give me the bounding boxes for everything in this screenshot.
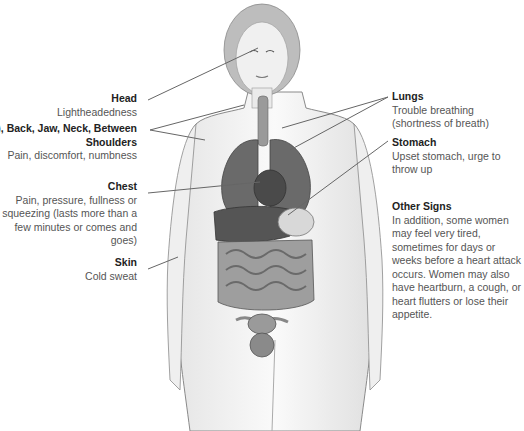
label-head-desc: Lightheadedness <box>57 106 137 120</box>
label-skin: Skin Cold sweat <box>85 256 137 283</box>
label-skin-title: Skin <box>85 256 137 270</box>
label-other-signs-desc: In addition, some women may feel very ti… <box>392 214 522 322</box>
label-skin-desc: Cold sweat <box>85 270 137 284</box>
label-head-title: Head <box>57 92 137 106</box>
label-lungs-title: Lungs <box>392 90 522 104</box>
heart <box>254 170 286 206</box>
trachea <box>258 96 268 146</box>
label-stomach-desc: Upset stomach, urge to throw up <box>392 150 522 177</box>
label-head: Head Lightheadedness <box>57 92 137 119</box>
intestines <box>218 240 314 310</box>
label-lungs-desc: Trouble breathing (shortness of breath) <box>392 104 522 131</box>
label-chest-title: Chest <box>0 180 137 194</box>
label-stomach: Stomach Upset stomach, urge to throw up <box>392 136 522 177</box>
label-arms-desc: Pain, discomfort, numbness <box>0 149 137 163</box>
label-stomach-title: Stomach <box>392 136 522 150</box>
label-lungs: Lungs Trouble breathing (shortness of br… <box>392 90 522 131</box>
stomach-organ <box>278 208 314 236</box>
label-arms: Arm(s), Back, Jaw, Neck, Between Shoulde… <box>0 122 137 163</box>
label-arms-title: Arm(s), Back, Jaw, Neck, Between Shoulde… <box>0 122 137 149</box>
label-other-signs-title: Other Signs <box>392 200 522 214</box>
label-chest-desc: Pain, pressure, fullness or squeezing (l… <box>0 194 137 248</box>
label-other-signs: Other Signs In addition, some women may … <box>392 200 522 322</box>
label-chest: Chest Pain, pressure, fullness or squeez… <box>0 180 137 248</box>
